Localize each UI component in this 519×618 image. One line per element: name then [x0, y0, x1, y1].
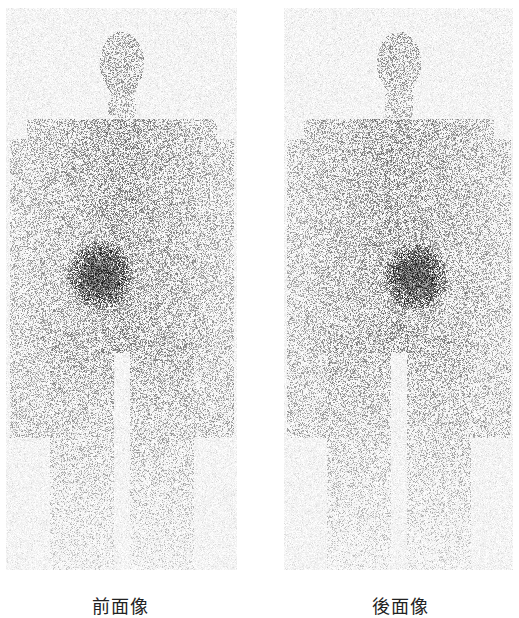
anterior-caption: 前面像: [92, 592, 149, 618]
anterior-scan-image: [6, 8, 237, 570]
posterior-scan-image: [284, 8, 513, 570]
posterior-scan-canvas: [284, 8, 513, 570]
posterior-caption: 後面像: [372, 592, 429, 618]
anterior-scan-canvas: [6, 8, 237, 570]
